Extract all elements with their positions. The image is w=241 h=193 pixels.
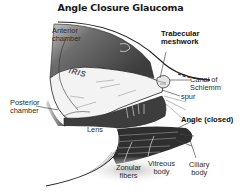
label-trabecular-meshwork: Trabecular meshwork	[161, 30, 199, 46]
label-anterior-chamber: Anterior chamber	[52, 27, 81, 43]
label-angle-closed: Angle (closed)	[181, 116, 233, 124]
label-canal-of-schlemm: Canal of Schlemm	[190, 76, 221, 92]
label-ciliary-body: Ciliary body	[189, 161, 210, 177]
label-vitreous-body: Vitreous body	[148, 160, 175, 176]
diagram-title: Angle Closure Glaucoma	[0, 2, 241, 13]
label-spur: spur	[181, 93, 195, 101]
label-lens: Lens	[87, 126, 103, 134]
label-posterior-chamber: Posterior chamber	[10, 99, 40, 115]
canal-of-schlemm-shape	[157, 75, 170, 88]
label-zonular-fibers: Zonular fibers	[116, 164, 141, 180]
